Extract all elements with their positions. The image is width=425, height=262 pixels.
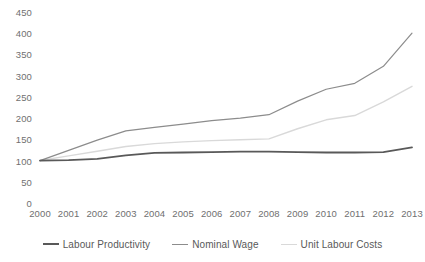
legend-label: Unit Labour Costs bbox=[301, 239, 383, 250]
legend-label: Nominal Wage bbox=[192, 239, 258, 250]
series-line bbox=[40, 147, 412, 160]
legend-line-swatch-icon bbox=[281, 244, 297, 245]
x-axis-tick-label: 2009 bbox=[287, 208, 309, 219]
series-line bbox=[40, 86, 412, 160]
legend-line-swatch-icon bbox=[43, 243, 59, 245]
x-axis-tick-label: 2003 bbox=[115, 208, 137, 219]
x-axis-tick-label: 2012 bbox=[373, 208, 395, 219]
x-axis-tick-label: 2000 bbox=[29, 208, 51, 219]
line-chart: 450400350300250200150100500 200020012002… bbox=[0, 0, 425, 262]
x-axis-tick-label: 2005 bbox=[172, 208, 194, 219]
x-axis-tick-label: 2010 bbox=[315, 208, 337, 219]
x-axis-tick-label: 2008 bbox=[258, 208, 280, 219]
x-axis-tick-label: 2011 bbox=[344, 208, 365, 219]
chart-legend: Labour ProductivityNominal WageUnit Labo… bbox=[0, 234, 425, 254]
legend-line-swatch-icon bbox=[172, 244, 188, 245]
x-axis-tick-label: 2004 bbox=[144, 208, 166, 219]
x-axis-tick-label: 2007 bbox=[230, 208, 252, 219]
x-axis-tick-label: 2006 bbox=[201, 208, 223, 219]
x-axis: 2000200120022003200420052006200720082009… bbox=[0, 208, 425, 224]
legend-label: Labour Productivity bbox=[63, 239, 151, 250]
legend-entry[interactable]: Nominal Wage bbox=[172, 239, 258, 250]
series-line bbox=[40, 33, 412, 160]
x-axis-tick-label: 2002 bbox=[86, 208, 108, 219]
legend-entry[interactable]: Labour Productivity bbox=[43, 239, 151, 250]
x-axis-tick-label: 2013 bbox=[401, 208, 423, 219]
x-axis-tick-label: 2001 bbox=[58, 208, 80, 219]
legend-entry[interactable]: Unit Labour Costs bbox=[281, 239, 383, 250]
